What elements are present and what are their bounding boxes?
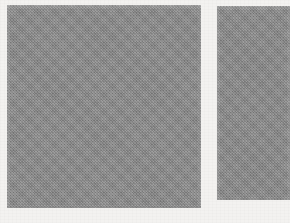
panel-edge-fade: [7, 5, 201, 208]
panel-edge-fade: [217, 6, 290, 200]
figure-panel-right: [217, 6, 290, 200]
scanned-page: [0, 0, 290, 223]
figure-panel-left: [7, 5, 201, 208]
